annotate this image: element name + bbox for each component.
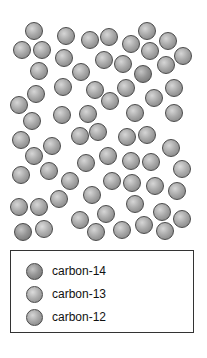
legend-item-carbon-13: carbon-13 bbox=[26, 284, 106, 304]
atom-c12-icon bbox=[122, 152, 140, 170]
carbon-14-swatch-icon bbox=[26, 263, 43, 280]
atom-c12-icon bbox=[89, 123, 107, 141]
atom-c12-icon bbox=[10, 96, 28, 114]
atom-field bbox=[0, 0, 207, 245]
atom-c12-icon bbox=[50, 190, 68, 208]
atom-c13-icon bbox=[173, 160, 191, 178]
legend-item-carbon-12: carbon-12 bbox=[26, 307, 106, 327]
atom-c14-icon bbox=[134, 65, 152, 83]
atom-c12-icon bbox=[174, 47, 192, 65]
atom-c14-icon bbox=[14, 223, 32, 241]
atom-c12-icon bbox=[12, 131, 30, 149]
atom-c12-icon bbox=[141, 42, 159, 60]
atom-c12-icon bbox=[99, 147, 117, 165]
legend-label: carbon-12 bbox=[52, 310, 106, 324]
atom-c12-icon bbox=[87, 223, 105, 241]
atom-c12-icon bbox=[117, 79, 135, 97]
atom-c12-icon bbox=[77, 154, 95, 172]
atom-c12-icon bbox=[165, 104, 183, 122]
atom-c12-icon bbox=[13, 41, 31, 59]
atom-c12-icon bbox=[145, 89, 163, 107]
atom-c12-icon bbox=[27, 85, 45, 103]
atom-c12-icon bbox=[142, 153, 160, 171]
atom-c12-icon bbox=[101, 92, 119, 110]
atom-c12-icon bbox=[83, 186, 101, 204]
atom-c12-icon bbox=[25, 22, 43, 40]
atom-c12-icon bbox=[55, 49, 73, 67]
legend: carbon-14 carbon-13 carbon-12 bbox=[10, 250, 194, 333]
atom-c12-icon bbox=[54, 78, 72, 96]
atom-c13-icon bbox=[35, 220, 53, 238]
atom-c12-icon bbox=[168, 182, 186, 200]
atom-c12-icon bbox=[81, 31, 99, 49]
atom-c12-icon bbox=[79, 105, 97, 123]
atom-c12-icon bbox=[57, 27, 75, 45]
atom-c12-icon bbox=[103, 172, 121, 190]
atom-c12-icon bbox=[100, 28, 118, 46]
atom-c12-icon bbox=[40, 162, 58, 180]
atom-c12-icon bbox=[10, 198, 28, 216]
atom-c12-icon bbox=[113, 221, 131, 239]
atom-c12-icon bbox=[122, 35, 140, 53]
atom-c12-icon bbox=[138, 126, 156, 144]
atom-c12-icon bbox=[153, 203, 171, 221]
legend-label: carbon-13 bbox=[52, 287, 106, 301]
atom-c12-icon bbox=[135, 216, 153, 234]
atom-c12-icon bbox=[156, 222, 174, 240]
atom-c12-icon bbox=[126, 195, 144, 213]
atom-c12-icon bbox=[95, 51, 113, 69]
atom-c12-icon bbox=[162, 139, 180, 157]
atom-c12-icon bbox=[71, 211, 89, 229]
atom-c12-icon bbox=[173, 210, 191, 228]
atom-c12-icon bbox=[146, 177, 164, 195]
atom-c12-icon bbox=[30, 62, 48, 80]
atom-c12-icon bbox=[71, 127, 89, 145]
atom-c12-icon bbox=[30, 198, 48, 216]
legend-item-carbon-14: carbon-14 bbox=[26, 261, 106, 281]
atom-c12-icon bbox=[25, 147, 43, 165]
carbon-12-swatch-icon bbox=[26, 309, 43, 326]
atom-c12-icon bbox=[114, 55, 132, 73]
atom-c12-icon bbox=[61, 172, 79, 190]
atom-c12-icon bbox=[118, 128, 136, 146]
atom-c12-icon bbox=[157, 56, 175, 74]
legend-label: carbon-14 bbox=[52, 264, 106, 278]
atom-c12-icon bbox=[126, 104, 144, 122]
atom-c12-icon bbox=[43, 137, 61, 155]
carbon-13-swatch-icon bbox=[26, 286, 43, 303]
atom-c12-icon bbox=[23, 112, 41, 130]
atom-c12-icon bbox=[12, 166, 30, 184]
atom-c12-icon bbox=[138, 22, 156, 40]
atom-c12-icon bbox=[72, 63, 90, 81]
atom-c12-icon bbox=[53, 106, 71, 124]
atom-c12-icon bbox=[123, 174, 141, 192]
atom-c12-icon bbox=[97, 205, 115, 223]
atom-c12-icon bbox=[159, 32, 177, 50]
atom-c12-icon bbox=[165, 79, 183, 97]
atom-c12-icon bbox=[33, 41, 51, 59]
